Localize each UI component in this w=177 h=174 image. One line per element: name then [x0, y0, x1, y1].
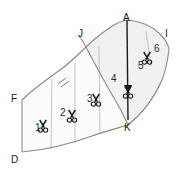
section-label-3: 3 [87, 94, 93, 104]
center-axis-A-to-K [127, 20, 128, 120]
diagram-canvas [0, 0, 177, 174]
pattern-diagram-figure: A J I F K D 1 2 3 4 5 6 [0, 0, 177, 174]
section-label-6: 6 [154, 44, 160, 54]
point-label-K: K [124, 123, 131, 133]
section-label-4: 4 [111, 74, 117, 84]
section-label-5: 5 [138, 61, 144, 71]
point-label-D: D [11, 155, 18, 165]
section-label-2: 2 [60, 108, 66, 118]
point-label-F: F [11, 94, 17, 104]
section-label-1: 1 [35, 123, 41, 133]
point-label-I: I [165, 29, 168, 39]
point-label-A: A [123, 13, 130, 23]
point-label-J: J [78, 29, 83, 39]
